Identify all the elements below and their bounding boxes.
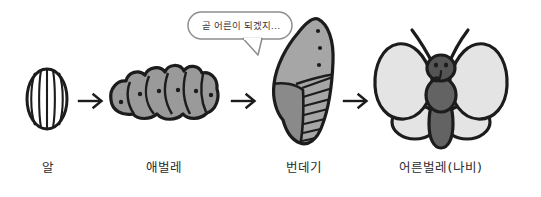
stage-label-adult: 어른벌레(나비) — [368, 157, 513, 176]
stage-pupa: 번데기 — [262, 0, 346, 197]
butterfly-eye-right — [444, 62, 448, 67]
stage-label-pupa: 번데기 — [262, 157, 346, 176]
stage-label-larva: 애벌레 — [104, 157, 224, 176]
arrow-larva-to-pupa-icon — [228, 88, 262, 114]
stage-label-egg: 알 — [0, 157, 96, 176]
stage-adult: 어른벌레(나비) — [368, 0, 513, 197]
butterfly-life-cycle-diagram: 알 애벌레 — [0, 0, 541, 197]
butterfly-eye-left — [434, 62, 438, 67]
